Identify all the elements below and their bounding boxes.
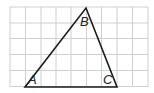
triangle-diagram: A B C xyxy=(0,0,154,93)
vertex-label-c: C xyxy=(103,72,113,87)
vertex-label-a: A xyxy=(27,72,37,87)
vertex-label-b: B xyxy=(80,14,89,29)
